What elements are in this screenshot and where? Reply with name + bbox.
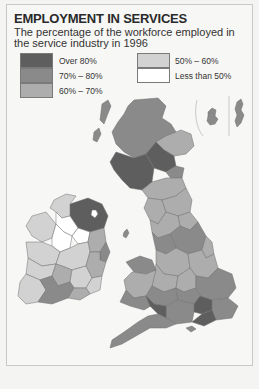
- isle-of-wight: [186, 326, 196, 332]
- region-mayo: [26, 212, 56, 242]
- region-western-isles: [93, 100, 111, 142]
- legend-label-under-50: Less than 50%: [175, 71, 231, 81]
- region-south-west: [110, 314, 176, 348]
- map-subtitle: The percentage of the workforce employed…: [14, 27, 244, 49]
- legend-label-70-80: 70% – 80%: [59, 71, 102, 81]
- legend-label-over-80: Over 80%: [59, 56, 97, 66]
- isle-of-man: [123, 229, 129, 238]
- legend-label-50-60: 50% – 60%: [175, 56, 218, 66]
- legend-swatch-70-80: [20, 68, 53, 83]
- legend-swatch-under-50: [137, 68, 170, 83]
- map-title: EMPLOYMENT IN SERVICES: [14, 11, 187, 26]
- legend-swatch-over-80: [20, 53, 53, 68]
- shetland-islands: [235, 99, 244, 127]
- orkney-islands: [207, 108, 218, 125]
- region-strathclyde: [110, 152, 154, 190]
- legend-swatch-50-60: [137, 53, 170, 68]
- uk-ireland-map: [6, 92, 253, 364]
- region-north-wales: [126, 256, 156, 274]
- inset-divider: [196, 100, 203, 136]
